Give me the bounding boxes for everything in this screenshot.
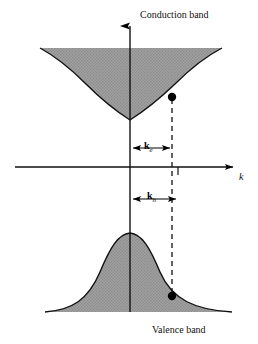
valence-band-label: Valence band (152, 325, 206, 335)
k-axis-label: k (239, 172, 243, 182)
band-diagram-figure: Conduction band Valence band k ke kh (0, 0, 258, 344)
band-diagram-canvas (0, 0, 258, 344)
k-hole-subscript: h (153, 196, 157, 204)
k-electron-label: ke (144, 140, 153, 154)
hole-marker (168, 292, 176, 300)
k-electron-subscript: e (150, 146, 153, 154)
electron-marker (168, 93, 176, 101)
valence-band-region (45, 233, 232, 312)
k-hole-label: kh (147, 190, 156, 204)
conduction-band-label: Conduction band (140, 10, 209, 20)
conduction-band-region (40, 48, 222, 120)
